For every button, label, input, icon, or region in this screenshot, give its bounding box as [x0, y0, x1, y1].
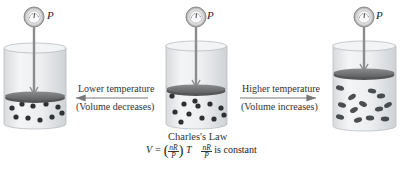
pressure-label-right: P	[376, 9, 383, 21]
container-initial	[166, 7, 228, 129]
formula-fraction: nRP	[168, 144, 178, 159]
gas-molecule	[25, 115, 30, 120]
charles-law-formula: V = (nRP) T nRP is constant	[146, 143, 257, 159]
constant-note: is constant	[214, 144, 257, 155]
gauge-needle	[196, 14, 197, 19]
gauge-needle	[364, 14, 365, 19]
lower-temperature-label: Lower temperature	[78, 83, 154, 94]
piston	[167, 84, 226, 93]
formula-variable: T	[186, 144, 192, 155]
gas-molecule	[13, 114, 18, 119]
gas-molecule	[211, 116, 216, 121]
gas-molecule	[172, 109, 177, 114]
gas-molecule	[186, 111, 191, 116]
gas-molecule	[199, 115, 204, 120]
piston	[334, 68, 395, 77]
pressure-label-center: P	[207, 9, 214, 21]
gas-molecule	[221, 112, 226, 117]
container-high-temp	[333, 7, 397, 131]
fraction-denominator: P	[168, 152, 178, 159]
formula-close-paren: )	[179, 143, 184, 158]
piston	[5, 91, 65, 100]
container-low-temp	[4, 7, 66, 129]
gas-molecule	[30, 103, 35, 108]
gas-molecule	[178, 119, 183, 124]
gauge-needle	[34, 14, 35, 19]
gas-molecule	[195, 103, 200, 108]
pressure-label-left: P	[47, 9, 54, 21]
gas-molecule	[381, 117, 389, 122]
constant-denominator: P	[201, 152, 211, 159]
gas-molecule	[55, 104, 60, 109]
gas-molecule	[218, 105, 223, 110]
gas-molecule	[181, 101, 186, 106]
gas-molecule	[9, 105, 14, 110]
gas-molecule	[207, 101, 212, 106]
volume-decreases-label: (Volume decreases)	[76, 101, 154, 112]
gas-molecule	[37, 117, 42, 122]
gas-molecule	[192, 98, 197, 103]
volume-increases-label: (Volume increases)	[241, 101, 318, 112]
higher-temperature-label: Higher temperature	[242, 83, 320, 94]
constant-fraction: nRP	[201, 144, 211, 159]
gas-molecule	[59, 110, 64, 115]
gas-molecule	[49, 114, 54, 119]
diagram-title: Charles's Law	[168, 131, 227, 142]
formula-lhs: V =	[146, 144, 161, 155]
